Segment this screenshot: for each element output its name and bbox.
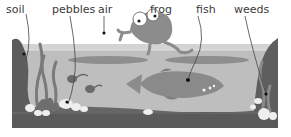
lily-pad-left: [68, 56, 148, 64]
water-surface: [12, 44, 278, 50]
aquarium-illustration: [0, 0, 291, 137]
label-fish: fish: [196, 3, 216, 16]
soil-floor: [12, 112, 278, 128]
label-air: air: [98, 3, 112, 16]
aquarium-diagram: soil pebbles air frog fish weeds: [0, 0, 291, 137]
label-frog: frog: [150, 3, 172, 16]
lily-pad-right: [165, 56, 249, 64]
label-weeds: weeds: [234, 3, 269, 16]
label-soil: soil: [6, 3, 25, 16]
label-pebbles: pebbles: [52, 3, 95, 16]
